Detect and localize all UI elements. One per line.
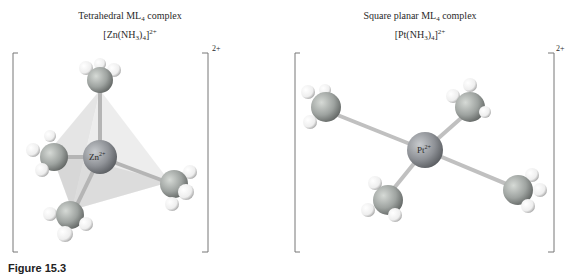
- molecule-diagrams: [0, 0, 574, 279]
- right-bracket: [548, 53, 554, 252]
- ammonia-ligand: [160, 165, 197, 211]
- ammonia-ligand: [301, 84, 341, 129]
- nitrogen-atom: [455, 92, 485, 122]
- hydrogen-atom: [301, 85, 315, 99]
- hydrogen-atom: [165, 197, 179, 211]
- ammonia-ligand: [446, 78, 491, 122]
- hydrogen-atom: [388, 208, 402, 222]
- hydrogen-atom: [178, 184, 194, 200]
- hydrogen-atom: [303, 115, 317, 129]
- atom-charge: 2+: [425, 144, 431, 150]
- hydrogen-atom: [26, 143, 40, 157]
- ammonia-ligand: [503, 168, 547, 213]
- hydrogen-atom: [79, 217, 93, 231]
- right-bracket: [202, 53, 208, 252]
- atom-charge: 2+: [99, 151, 105, 157]
- hydrogen-atom: [57, 226, 73, 242]
- hydrogen-atom: [361, 203, 375, 217]
- platinum-label: Pt2+: [417, 144, 431, 155]
- tetrahedral-molecule: [26, 58, 197, 242]
- hydrogen-atom: [521, 199, 535, 213]
- figure-caption: Figure 15.3: [8, 262, 66, 274]
- hydrogen-atom: [463, 78, 477, 92]
- hydrogen-atom: [43, 207, 57, 221]
- left-bracket: [13, 53, 18, 252]
- atom-symbol: Pt: [417, 145, 425, 155]
- ammonia-ligand: [43, 201, 93, 242]
- nitrogen-atom: [311, 92, 341, 122]
- nitrogen-atom: [87, 67, 113, 93]
- hydrogen-atom: [533, 183, 547, 197]
- atom-symbol: Zn: [89, 152, 99, 162]
- hydrogen-atom: [35, 163, 49, 177]
- zinc-label: Zn2+: [89, 151, 105, 162]
- hydrogen-atom: [44, 130, 56, 142]
- left-bracket: [295, 53, 300, 252]
- hydrogen-atom: [479, 106, 491, 118]
- ammonia-ligand: [79, 58, 121, 93]
